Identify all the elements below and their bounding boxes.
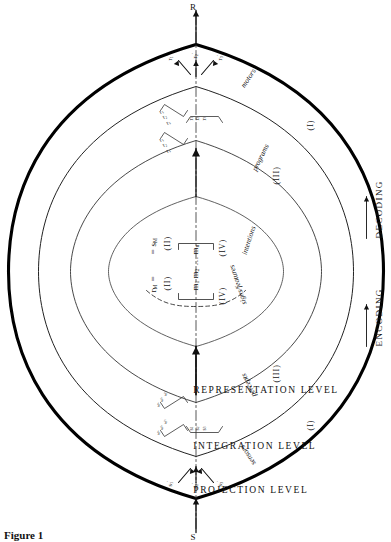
vector-sub: 3 (203, 426, 207, 428)
memory-element-2: m2 (190, 268, 200, 278)
sensor-arrow-3 (201, 468, 213, 482)
output-vector-center: r1 r2 r3 (188, 116, 207, 120)
signal-prime: ′ (190, 53, 195, 54)
level-label-representation: REPRESENTATION LEVEL (193, 385, 339, 395)
memory-ellipsis: ··· (192, 256, 201, 265)
core-input-vector-sub: M (152, 284, 158, 289)
memory-sub: n (194, 244, 200, 247)
level-label-projection: PROJECTION LEVEL (193, 485, 308, 495)
memory-element-1: m1 (190, 280, 200, 290)
roman-input-inner: (III) (272, 364, 280, 382)
signal-prime: ′ (215, 481, 220, 482)
primed-input-3: s3′ (216, 481, 223, 486)
core-output-vector-symbol: s (147, 242, 157, 246)
encoding-arrowhead (363, 304, 368, 309)
primed-input-1: s1′ (166, 481, 173, 486)
core-input-relation: = (147, 276, 157, 281)
sensor-arrow-1 (178, 468, 190, 482)
roman-core-input: (II) (163, 275, 171, 290)
roman-bracket-output: (IV) (218, 238, 226, 256)
signal-prime: ′ (165, 481, 170, 482)
motor-arrowhead-1 (173, 60, 178, 66)
memory-symbol: m (189, 247, 199, 254)
stimulus-label: S (190, 533, 195, 542)
roman-output-outer: (I) (306, 119, 314, 130)
motor-arrow-3 (201, 60, 213, 74)
encoding-label: ENCODING (374, 288, 383, 346)
memory-sub: 2 (194, 268, 200, 271)
core-output-relation: = (147, 249, 157, 254)
memory-symbol: m (189, 283, 199, 290)
memory-element-n: mn (190, 244, 200, 254)
level-label-integration: INTEGRATION LEVEL (193, 441, 316, 451)
decoding-label: DECODING (374, 180, 383, 238)
primed-output-3: r3′ (216, 55, 223, 60)
core-input-vector: rM= (148, 276, 158, 292)
core-output-vector-sub: M (152, 237, 158, 242)
input-bracket (178, 293, 213, 299)
primed-output-1: r1′ (166, 55, 173, 60)
roman-input-outer: (I) (306, 419, 314, 430)
memory-core-dashed-arc (146, 290, 245, 306)
memory-sub: 1 (194, 280, 200, 283)
input-vector-center: s1 s2 s3 (188, 426, 207, 430)
vector-sub: 3 (203, 116, 207, 118)
primed-input-2: s2′ (191, 483, 198, 488)
roman-bracket-input: (IV) (218, 286, 226, 304)
primed-output-2: r2′ (191, 53, 198, 58)
signal-prime: ′ (215, 55, 220, 56)
roman-output-inner: (III) (272, 166, 280, 184)
memory-symbol: m (189, 271, 199, 278)
figure-page: S R PROJECTION LEVEL INTEGRATION LEVEL R… (0, 0, 391, 542)
roman-core-output: (II) (163, 235, 171, 250)
core-output-vector: =sM (148, 237, 158, 254)
figure-caption: Figure 1 (4, 529, 43, 541)
response-label: R (189, 2, 195, 11)
signal-prime: ′ (165, 55, 170, 56)
motor-arrow-1 (178, 60, 190, 74)
diagram-stage: S R PROJECTION LEVEL INTEGRATION LEVEL R… (0, 0, 391, 542)
decoding-arrowhead (363, 196, 368, 201)
signal-prime: ′ (190, 483, 195, 484)
